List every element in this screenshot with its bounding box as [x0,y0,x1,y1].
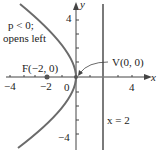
parabola-diagram: p < 0; opens left F(−2, 0) V(0, 0) x = 2… [0,0,158,158]
focus-point [45,75,50,80]
vertex-label: V(0, 0) [112,56,144,69]
y-tick-label: 4 [66,12,72,24]
y-axis-label: y [79,0,85,10]
directrix-label: x = 2 [107,114,130,126]
y-axis-arrow [73,2,79,10]
focus-label: F(−2, 0) [22,62,58,75]
x-tick-label: −4 [4,80,16,92]
x-tick-label: −2 [40,80,52,92]
annotation-line-2: opens left [3,32,46,44]
x-axis-label: x [150,71,156,83]
vertex-point [74,75,78,79]
x-tick-label: 0 [64,81,70,93]
y-tick-label: −4 [58,131,70,143]
x-tick-label: 4 [129,81,135,93]
annotation-line-1: p < 0; [8,19,34,31]
